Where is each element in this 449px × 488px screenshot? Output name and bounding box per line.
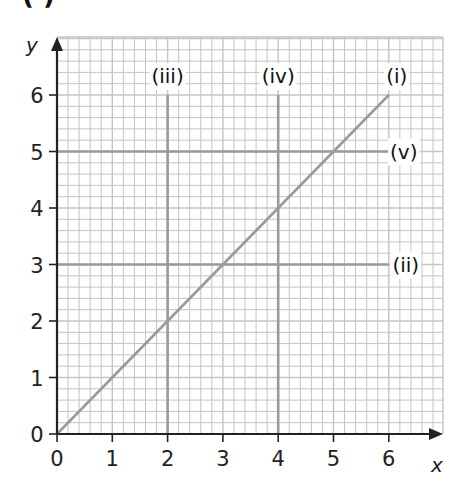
- line-label-iii: (iii): [151, 64, 183, 88]
- x-tick-label: 3: [216, 447, 229, 471]
- y-tick-label: 5: [30, 141, 43, 165]
- clipped-heading: ( ): [22, 0, 55, 10]
- coordinate-grid-chart: ( ) 01234560123456 x y (i)(ii)(iii)(iv)(…: [0, 0, 449, 488]
- x-tick-label: 4: [272, 447, 285, 471]
- y-tick-label: 3: [30, 254, 43, 278]
- x-axis-label: x: [430, 453, 443, 477]
- x-tick-label: 5: [327, 447, 340, 471]
- line-label-iv: (iv): [262, 64, 295, 88]
- y-tick-label: 2: [30, 310, 43, 334]
- x-tick-label: 2: [161, 447, 174, 471]
- y-axis-label: y: [25, 33, 39, 57]
- y-tick-label: 4: [30, 197, 43, 221]
- axis-ticks: 01234560123456: [30, 84, 395, 471]
- x-axis-arrow-icon: [429, 428, 443, 440]
- line-label-i: (i): [386, 64, 407, 88]
- x-tick-label: 6: [382, 447, 395, 471]
- y-tick-label: 1: [30, 367, 43, 391]
- y-tick-label: 0: [30, 423, 43, 447]
- y-tick-label: 6: [30, 84, 43, 108]
- x-tick-label: 1: [106, 447, 119, 471]
- line-label-ii: (ii): [392, 253, 419, 277]
- line-label-v: (v): [390, 140, 417, 164]
- x-tick-label: 0: [50, 447, 63, 471]
